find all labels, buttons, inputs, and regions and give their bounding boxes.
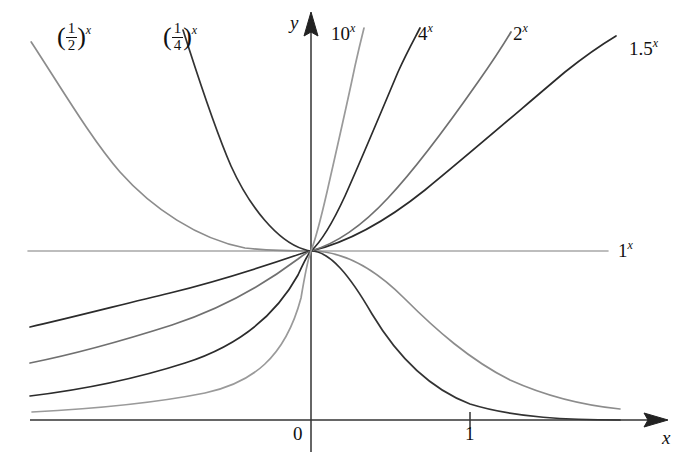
exponential-functions-chart <box>0 0 693 474</box>
curve-label-one-quarter: (14)x <box>163 22 197 55</box>
paren-close-half: ) <box>77 22 86 51</box>
base-ten: 10 <box>331 23 350 44</box>
exponent-x-ten: x <box>350 21 355 35</box>
fraction-one-half: 12 <box>66 21 78 54</box>
x-axis-arrowhead <box>644 413 668 427</box>
curve-label-one-point-five: 1.5x <box>629 38 658 58</box>
y-axis-label: y <box>290 13 298 32</box>
curve-label-one-half: (12)x <box>57 22 91 55</box>
curve-label-two: 2x <box>513 23 528 43</box>
curve-10-pow-x <box>32 28 364 412</box>
x-tick-label-0: 0 <box>293 424 303 443</box>
curve-one-quarter-pow-x <box>183 30 620 420</box>
curve-label-four: 4x <box>418 23 433 43</box>
exponent-x-quarter: x <box>192 23 197 37</box>
paren-open-half: ( <box>57 22 66 51</box>
paren-open-quarter: ( <box>163 22 172 51</box>
curve-one-half-pow-x <box>31 42 620 409</box>
base-two: 2 <box>513 23 523 44</box>
base-four: 4 <box>418 23 428 44</box>
fraction-numerator: 1 <box>66 21 78 37</box>
fraction-denominator: 2 <box>66 37 78 54</box>
exponent-x-four: x <box>428 21 433 35</box>
fraction-numerator: 1 <box>172 21 184 37</box>
exponent-x-two: x <box>523 21 528 35</box>
base-one-point-five: 1.5 <box>629 38 653 59</box>
paren-close-quarter: ) <box>183 22 192 51</box>
exponent-x-one-point-five: x <box>653 36 658 50</box>
base-one: 1 <box>618 240 628 261</box>
curve-label-ten: 10x <box>331 23 355 43</box>
x-axis-label: x <box>662 428 670 447</box>
curve-1point5-pow-x <box>30 36 616 327</box>
exponent-x-half: x <box>86 23 91 37</box>
x-tick-label-1: 1 <box>465 424 475 443</box>
curve-4-pow-x <box>30 28 420 396</box>
fraction-one-quarter: 14 <box>172 21 184 54</box>
fraction-denominator: 4 <box>172 37 184 54</box>
curve-label-one: 1x <box>618 240 633 260</box>
y-axis-arrowhead <box>304 12 318 36</box>
exponent-x-one: x <box>628 238 633 252</box>
